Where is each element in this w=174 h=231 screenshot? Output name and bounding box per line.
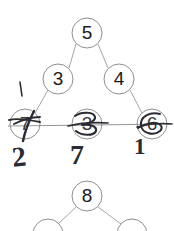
strike-through-node-6-line <box>137 124 172 127</box>
strike-through-node-7-diagonal <box>23 111 34 141</box>
handwriting-overlay-layer <box>0 0 174 231</box>
scanned-worksheet-page: 5 3 4 7 3 6 8 2 7 1 <box>0 0 174 231</box>
handwritten-label-right: 1 <box>134 134 146 160</box>
tick-mark-stroke <box>20 82 22 96</box>
handwritten-label-middle: 7 <box>70 139 84 171</box>
